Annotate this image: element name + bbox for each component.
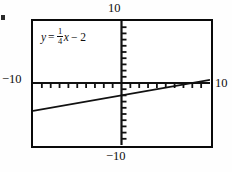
fraction-denominator: 4 (57, 37, 63, 46)
equation-lhs: y (41, 31, 46, 43)
equation-fraction: 1 4 (57, 27, 63, 46)
axis-label-xmax: 10 (215, 76, 228, 91)
graph-figure: 10 −10 −10 10 y = 1 4 x − 2 (0, 0, 232, 172)
equation-annotation: y = 1 4 x − 2 (41, 27, 88, 46)
equation-equals-sign: = (48, 31, 55, 43)
equation-variable: x (64, 31, 69, 43)
axis-label-ymax: 10 (108, 1, 121, 16)
axis-label-ymin: −10 (106, 149, 126, 164)
fraction-numerator: 1 (57, 27, 63, 36)
scan-artifact-speck (1, 15, 5, 20)
equation-constant: − 2 (71, 31, 86, 43)
axis-label-xmin: −10 (2, 72, 22, 87)
